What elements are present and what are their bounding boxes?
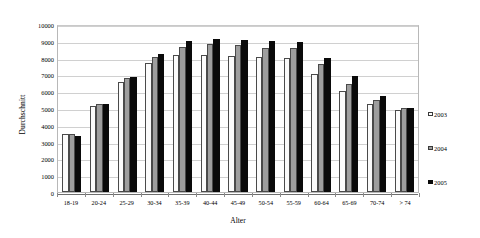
bar-group [224,26,252,192]
bar [269,41,275,192]
bar [103,104,109,192]
x-axis-tick-mark [57,193,58,197]
x-axis-tick-label: 35-39 [168,198,196,210]
y-axis-tick-label: 4000 [30,122,54,129]
bar [380,96,386,192]
bar-group [307,26,335,192]
x-axis-title: Alter [57,216,419,225]
x-axis-tick-mark [252,193,253,197]
chart-legend: 200320042005 [428,97,478,199]
y-axis-tick-label: 1000 [30,173,54,180]
x-axis-tick-mark [168,193,169,197]
x-axis-tick-mark [224,193,225,197]
bar-group [196,26,224,192]
y-axis-tick-label: 2000 [30,156,54,163]
y-axis-title: Durchschnitt [16,72,30,156]
x-axis-tick-label: 30-34 [141,198,169,210]
x-axis-tick-mark [335,193,336,197]
swatch-gray-icon [428,146,433,151]
bar-group [363,26,391,192]
y-axis-tick-label: 7000 [30,72,54,79]
y-axis-tick-labels: 1000090008000700060005000400030002000100… [30,21,54,197]
y-axis-title-label: Durchschnitt [19,94,28,134]
legend-item-2005[interactable]: 2005 [428,165,478,199]
y-axis-tick-label: 10000 [30,22,54,29]
bar [130,77,136,192]
bar-group [141,26,169,192]
y-axis-tick-label: 3000 [30,139,54,146]
x-axis-tick-label: 65-69 [335,198,363,210]
x-axis-tick-label: 20-24 [85,198,113,210]
x-axis-tick-label: 70-74 [363,198,391,210]
y-axis-tick-label: 0 [30,190,54,197]
x-axis-tick-label: 40-44 [196,198,224,210]
x-axis-tick-mark [280,193,281,197]
bar-chart: Durchschnitt 100009000800070006000500040… [0,0,480,238]
x-axis-tick-mark [141,193,142,197]
legend-item-label: 2003 [434,111,447,118]
legend-item-2004[interactable]: 2004 [428,131,478,165]
y-axis-tick-label: 9000 [30,38,54,45]
legend-item-label: 2005 [434,179,447,186]
swatch-black-icon [428,180,433,185]
bar-group [390,26,418,192]
legend-item-2003[interactable]: 2003 [428,97,478,131]
x-axis-tick-mark [85,193,86,197]
bar-group [252,26,280,192]
swatch-white-icon [428,112,433,117]
bar [352,76,358,192]
x-axis-tick-label: 60-64 [308,198,336,210]
x-axis-tick-label: 50-54 [252,198,280,210]
x-axis-tick-mark [419,193,420,197]
bar-group [280,26,308,192]
legend-item-label: 2004 [434,145,447,152]
bar [241,40,247,192]
bar [75,136,81,192]
bar-group [169,26,197,192]
x-axis-tick-mark [196,193,197,197]
x-axis-tick-label: 25-29 [113,198,141,210]
bar-group [335,26,363,192]
y-axis-tick-label: 5000 [30,106,54,113]
bar [158,54,164,192]
x-axis-tick-label: 18-19 [57,198,85,210]
x-axis-tick-labels: 18-1920-2425-2930-3435-3940-4445-4950-54… [57,198,419,210]
x-axis-tick-mark [391,193,392,197]
x-axis-tick-label: > 74 [391,198,419,210]
bars-layer [58,26,418,192]
y-axis-tick-label: 8000 [30,55,54,62]
y-axis-tick-label: 6000 [30,89,54,96]
bar [213,39,219,192]
bar-group [86,26,114,192]
bar [407,108,413,192]
x-axis-tick-mark [308,193,309,197]
bar-group [113,26,141,192]
plot-area [57,25,419,193]
x-axis-tick-label: 45-49 [224,198,252,210]
bar [297,42,303,192]
bar-group [58,26,86,192]
bar [324,58,330,192]
x-axis-tick-mark [363,193,364,197]
bar [186,41,192,192]
x-axis-tick-mark [113,193,114,197]
x-axis-tick-label: 55-59 [280,198,308,210]
